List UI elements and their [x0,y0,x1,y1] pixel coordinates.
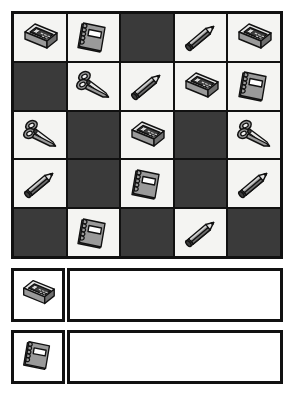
pencil-sharpener-icon [125,113,169,157]
grid-cell-r5-c2[interactable] [68,209,120,256]
answer-row-1-input[interactable] [67,268,283,322]
grid-cell-r4-c1[interactable] [14,160,66,207]
grid-cell-r1-c1[interactable] [14,14,66,61]
grid-cell-r1-c5[interactable] [228,14,280,61]
grid-cell-r4-c4[interactable] [175,160,227,207]
grid-cell-r3-c4[interactable] [175,112,227,159]
grid-cell-r3-c1[interactable] [14,112,66,159]
grid-cell-r3-c3[interactable] [121,112,173,159]
grid-cell-r5-c1[interactable] [14,209,66,256]
pencil-icon [232,162,276,206]
pencil-sharpener-icon [18,15,62,59]
scissors-icon [18,113,62,157]
grid-cell-r1-c4[interactable] [175,14,227,61]
grid-cell-r3-c2[interactable] [68,112,120,159]
answer-row-1 [11,268,283,322]
grid-cell-r2-c1[interactable] [14,63,66,110]
pattern-grid [14,14,280,256]
grid-cell-r2-c3[interactable] [121,63,173,110]
answer-row-1-icon-cell [11,268,65,322]
grid-cell-r1-c3[interactable] [121,14,173,61]
notebook-icon [125,162,169,206]
notebook-icon [17,334,59,380]
pencil-icon [179,15,223,59]
notebook-icon [71,211,115,255]
grid-cell-r1-c2[interactable] [68,14,120,61]
notebook-icon [232,64,276,108]
pencil-sharpener-icon [179,64,223,108]
pencil-icon [125,64,169,108]
grid-cell-r4-c3[interactable] [121,160,173,207]
answer-row-2 [11,330,283,384]
notebook-icon [71,15,115,59]
grid-cell-r5-c4[interactable] [175,209,227,256]
pencil-icon [18,162,62,206]
grid-cell-r2-c4[interactable] [175,63,227,110]
pencil-sharpener-icon [232,15,276,59]
grid-cell-r2-c5[interactable] [228,63,280,110]
pencil-sharpener-icon [17,272,59,318]
scissors-icon [232,113,276,157]
grid-cell-r4-c2[interactable] [68,160,120,207]
pattern-grid-container [11,11,283,259]
pencil-icon [179,211,223,255]
answer-row-2-icon-cell [11,330,65,384]
answer-row-2-input[interactable] [67,330,283,384]
grid-cell-r2-c2[interactable] [68,63,120,110]
grid-cell-r5-c3[interactable] [121,209,173,256]
grid-cell-r5-c5[interactable] [228,209,280,256]
scissors-icon [71,64,115,108]
grid-cell-r4-c5[interactable] [228,160,280,207]
grid-cell-r3-c5[interactable] [228,112,280,159]
